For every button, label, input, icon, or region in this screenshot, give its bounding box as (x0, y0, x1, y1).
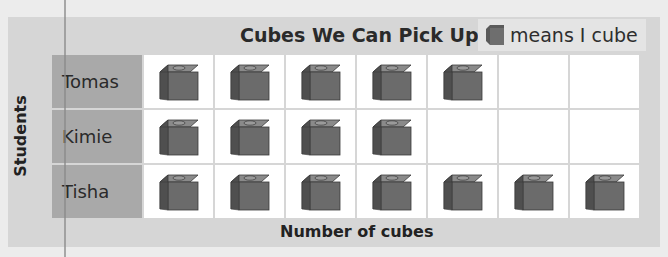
cube-icon (158, 62, 200, 102)
cube-cell (570, 165, 639, 218)
cube-cell (215, 55, 284, 108)
cube-cell (286, 55, 355, 108)
cube-cell (144, 55, 213, 108)
cube-icon (371, 117, 413, 157)
cube-icon (442, 172, 484, 212)
cube-icon (300, 117, 342, 157)
cube-cell (428, 165, 497, 218)
cube-icon (371, 172, 413, 212)
x-axis-label: Number of cubes (280, 222, 433, 241)
row-kimie: Kimie (52, 110, 639, 163)
cube-cell (357, 55, 426, 108)
empty-cell (499, 110, 568, 163)
row-tisha: Tisha (52, 165, 639, 218)
cube-icon (371, 62, 413, 102)
cube-icon (584, 172, 626, 212)
cube-cell (144, 165, 213, 218)
chart-title: Cubes We Can Pick Up (240, 24, 479, 46)
cube-icon (158, 117, 200, 157)
cube-icon (300, 172, 342, 212)
row-tomas: Tomas (52, 55, 639, 108)
cube-icon (229, 62, 271, 102)
empty-cell (499, 55, 568, 108)
cube-icon (229, 117, 271, 157)
cube-cell (428, 55, 497, 108)
legend-text: means I cube (510, 24, 638, 46)
y-axis-label: Students (11, 95, 30, 176)
legend: means I cube (478, 19, 646, 51)
vertical-guide-line (64, 0, 66, 257)
empty-cell (428, 110, 497, 163)
cube-cell (357, 110, 426, 163)
empty-cell (570, 55, 639, 108)
empty-cell (570, 110, 639, 163)
cube-icon (158, 172, 200, 212)
cube-cell (286, 165, 355, 218)
cube-icon (229, 172, 271, 212)
cube-cell (357, 165, 426, 218)
cube-icon (442, 62, 484, 102)
cube-cell (144, 110, 213, 163)
cube-icon (513, 172, 555, 212)
cube-cell (215, 165, 284, 218)
cube-cell (499, 165, 568, 218)
cube-cell (215, 110, 284, 163)
cube-cell (286, 110, 355, 163)
cube-icon (300, 62, 342, 102)
cube-icon (486, 25, 504, 45)
